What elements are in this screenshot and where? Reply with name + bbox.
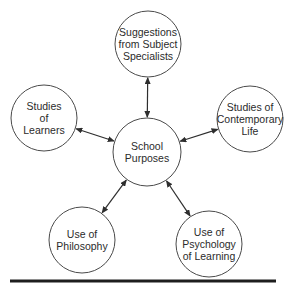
node-label-line: School — [131, 140, 163, 152]
node-label-line: Use of — [194, 226, 224, 238]
node-label-line: Contemporary — [217, 113, 284, 125]
node-psychology-of-learning: Use ofPsychologyof Learning — [176, 211, 242, 277]
node-label-line: Suggestions — [119, 26, 177, 38]
node-label-line: Learners — [23, 124, 64, 136]
node-label-line: Specialists — [123, 50, 173, 62]
double-arrow-icon-psychology-of-learning — [167, 181, 190, 216]
node-label-line: Psychology — [182, 238, 236, 250]
node-use-of-philosophy: Use ofPhilosophy — [49, 207, 115, 273]
node-label-line: Life — [242, 125, 259, 137]
node-studies-of-learners: StudiesofLearners — [11, 85, 77, 151]
node-contemporary-life: Studies ofContemporaryLife — [217, 86, 284, 152]
nodes-group: SchoolPurposesSuggestionsfrom SubjectSpe… — [11, 11, 284, 277]
node-label-line: Purposes — [125, 152, 169, 164]
node-school-purposes: SchoolPurposes — [113, 118, 181, 186]
double-arrow-icon-contemporary-life — [180, 129, 217, 141]
node-label-line: of — [40, 112, 49, 124]
node-label-line: of Learning — [183, 250, 236, 262]
node-label-line: Studies of — [227, 101, 274, 113]
double-arrow-icon-use-of-philosophy — [102, 180, 126, 213]
node-label-line: Philosophy — [56, 240, 108, 252]
node-label-line: Use of — [67, 228, 97, 240]
school-purposes-diagram: SchoolPurposesSuggestionsfrom SubjectSpe… — [0, 0, 297, 287]
node-subject-specialists: Suggestionsfrom SubjectSpecialists — [115, 11, 181, 77]
node-label-line: Studies — [26, 100, 61, 112]
double-arrow-icon-studies-of-learners — [76, 129, 114, 141]
node-label-line: from Subject — [119, 38, 178, 50]
